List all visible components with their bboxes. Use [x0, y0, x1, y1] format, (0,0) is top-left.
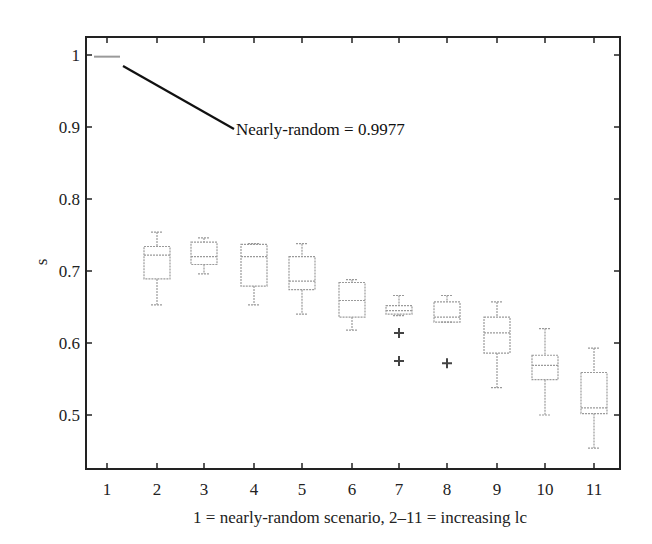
y-tick-label: 1 — [72, 46, 81, 65]
x-axis: 1234567891011 — [103, 37, 602, 499]
x-tick-label: 9 — [493, 480, 502, 499]
x-tick-label: 7 — [395, 480, 404, 499]
outlier-marker — [394, 356, 404, 366]
x-tick-label: 5 — [298, 480, 307, 499]
y-axis-title: s — [32, 259, 51, 266]
outlier-marker — [442, 358, 452, 368]
box-plot-chart: 0.50.60.70.80.91 1234567891011 1 = nearl… — [0, 0, 652, 544]
plot-border — [86, 37, 620, 469]
outlier-marker — [394, 328, 404, 338]
x-tick-label: 1 — [103, 480, 112, 499]
annotation-label: Nearly-random = 0.9977 — [236, 120, 405, 139]
x-tick-label: 6 — [348, 480, 357, 499]
iqr-box — [241, 244, 267, 286]
x-tick-label: 11 — [586, 480, 602, 499]
box-11 — [581, 348, 607, 448]
iqr-box — [434, 302, 460, 322]
y-tick-label: 0.6 — [59, 334, 80, 353]
iqr-box — [339, 283, 365, 318]
box-4 — [241, 244, 267, 305]
box-series — [94, 57, 607, 448]
y-tick-label: 0.7 — [59, 262, 81, 281]
box-7 — [386, 295, 412, 366]
x-tick-label: 4 — [250, 480, 259, 499]
x-axis-title: 1 = nearly-random scenario, 2–11 = incre… — [193, 508, 527, 527]
box-6 — [339, 280, 365, 330]
x-tick-label: 2 — [153, 480, 162, 499]
box-8 — [434, 295, 460, 368]
box-2 — [144, 232, 170, 305]
y-tick-label: 0.8 — [59, 190, 80, 209]
y-tick-label: 0.9 — [59, 118, 80, 137]
annotation-pointer-line — [123, 66, 234, 129]
iqr-box — [532, 355, 558, 379]
iqr-box — [144, 247, 170, 279]
box-5 — [289, 244, 315, 315]
iqr-box — [484, 317, 510, 353]
y-tick-label: 0.5 — [59, 406, 80, 425]
x-tick-label: 10 — [537, 480, 554, 499]
iqr-box — [191, 242, 217, 264]
box-9 — [484, 302, 510, 388]
box-10 — [532, 329, 558, 415]
x-tick-label: 3 — [200, 480, 209, 499]
iqr-box — [386, 306, 412, 315]
x-tick-label: 8 — [443, 480, 452, 499]
plot-area — [86, 37, 620, 469]
y-axis: 0.50.60.70.80.91 — [59, 46, 620, 425]
box-3 — [191, 238, 217, 274]
iqr-box — [289, 257, 315, 290]
annotation: Nearly-random = 0.9977 — [123, 66, 405, 139]
